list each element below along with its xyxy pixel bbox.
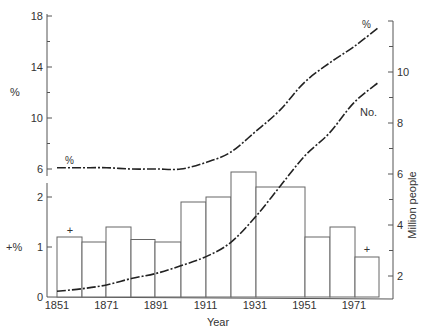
left-upper-axis-label: % bbox=[10, 86, 20, 98]
bar-1961 bbox=[330, 227, 355, 297]
x-tick-label: 1911 bbox=[194, 299, 218, 311]
x-axis-label: Year bbox=[207, 316, 230, 328]
left-lower-tick-label: 0 bbox=[37, 291, 43, 303]
bar-1901 bbox=[181, 202, 206, 297]
right-axis-label: Million people bbox=[406, 171, 418, 238]
x-tick-label: 1891 bbox=[144, 299, 168, 311]
bars-plus-percent bbox=[57, 172, 379, 297]
pct-series-end-label: % bbox=[362, 19, 371, 30]
no-series-label: No. bbox=[360, 106, 377, 118]
right-tick-label: 2 bbox=[397, 270, 403, 282]
right-tick-label: 4 bbox=[397, 219, 403, 231]
pct-series-start-label: % bbox=[65, 155, 74, 166]
bar-1921 bbox=[231, 172, 256, 297]
left-lower-axis-label: +% bbox=[6, 241, 22, 253]
plus-marker-1851: + bbox=[67, 224, 73, 236]
left-upper-tick-label: 10 bbox=[31, 112, 43, 124]
x-tick-label: 1871 bbox=[94, 299, 118, 311]
x-tick-label: 1951 bbox=[292, 299, 316, 311]
x-tick-label: 1971 bbox=[342, 299, 366, 311]
left-lower-tick-label: 1 bbox=[37, 241, 43, 253]
left-upper-tick-label: 6 bbox=[37, 163, 43, 175]
bar-1931-1951 bbox=[256, 187, 305, 297]
bar-1911 bbox=[206, 197, 231, 297]
left-upper-tick-label: 14 bbox=[31, 61, 43, 73]
left-lower-tick-label: 2 bbox=[37, 191, 43, 203]
right-tick-label: 10 bbox=[397, 66, 409, 78]
bar-1851 bbox=[57, 237, 82, 297]
plus-marker-1971: + bbox=[364, 243, 370, 255]
left-upper-tick-label: 18 bbox=[31, 10, 43, 22]
x-tick-label: 1931 bbox=[243, 299, 267, 311]
line-percent bbox=[57, 27, 379, 169]
x-tick-label: 1851 bbox=[45, 299, 69, 311]
right-tick-label: 8 bbox=[397, 117, 403, 129]
bar-1881 bbox=[131, 240, 155, 298]
right-tick-label: 6 bbox=[397, 168, 403, 180]
bar-1951 bbox=[305, 237, 330, 297]
bar-1871 bbox=[106, 227, 131, 297]
bar-1861 bbox=[82, 242, 106, 297]
bar-1971 bbox=[355, 257, 379, 297]
population-chart: 6101418012185118711891191119311951197124… bbox=[0, 0, 424, 336]
